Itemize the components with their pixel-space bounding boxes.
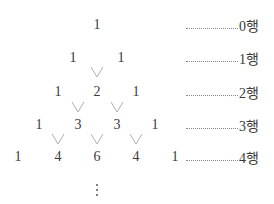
- row-1-value-0: 1: [66, 51, 80, 65]
- row-label-3: 3행: [186, 117, 259, 133]
- row-label-text: 3행: [239, 115, 259, 135]
- row-1-value-1: 1: [114, 51, 128, 65]
- row-label-2: 2행: [186, 84, 259, 100]
- vertical-ellipsis-icon: [95, 184, 99, 199]
- sum-connector-icon: [129, 133, 143, 145]
- sum-connector-icon: [90, 133, 104, 145]
- dotted-leader: [186, 160, 238, 161]
- sum-connector-icon: [71, 101, 85, 113]
- row-2-value-2: 1: [129, 85, 143, 99]
- row-label-text: 4행: [239, 147, 259, 167]
- row-3-value-0: 1: [32, 118, 46, 132]
- row-2-value-0: 1: [51, 85, 65, 99]
- row-3-value-1: 3: [71, 118, 85, 132]
- row-label-text: 2행: [239, 82, 259, 102]
- sum-connector-icon: [110, 101, 124, 113]
- row-0-value-0: 1: [90, 18, 104, 32]
- dotted-leader: [186, 28, 238, 29]
- dotted-leader: [186, 128, 238, 129]
- row-label-4: 4행: [186, 149, 259, 165]
- sum-connector-icon: [90, 66, 104, 78]
- row-label-0: 0행: [186, 17, 259, 33]
- row-4-value-3: 4: [129, 150, 143, 164]
- row-3-value-2: 3: [110, 118, 124, 132]
- row-label-1: 1행: [186, 50, 259, 66]
- sum-connector-icon: [51, 133, 65, 145]
- row-4-value-0: 1: [11, 150, 25, 164]
- row-label-text: 0행: [239, 15, 259, 35]
- row-4-value-1: 4: [51, 150, 65, 164]
- row-4-value-4: 1: [168, 150, 182, 164]
- row-4-value-2: 6: [90, 150, 104, 164]
- dotted-leader: [186, 95, 238, 96]
- dotted-leader: [186, 61, 238, 62]
- row-2-value-1: 2: [90, 85, 104, 99]
- row-3-value-3: 1: [148, 118, 162, 132]
- row-label-text: 1행: [239, 48, 259, 68]
